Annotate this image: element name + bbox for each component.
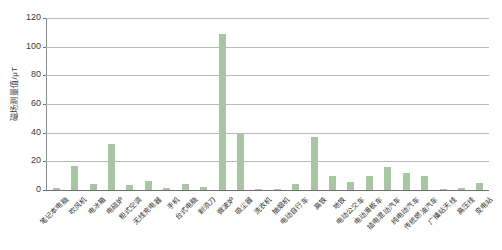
bar xyxy=(126,185,133,190)
bar xyxy=(274,189,281,190)
y-tick-label: 0 xyxy=(7,184,41,194)
bar xyxy=(458,188,465,190)
x-tick-label: 电冰箱 xyxy=(85,194,107,216)
y-tick-mark xyxy=(43,18,46,19)
y-tick-label: 20 xyxy=(7,155,41,165)
bar xyxy=(476,183,483,190)
y-tick-mark xyxy=(43,104,46,105)
y-tick-mark xyxy=(43,75,46,76)
x-tick-label: 笔记本电脑 xyxy=(38,194,71,227)
bar xyxy=(403,173,410,190)
y-tick-label: 80 xyxy=(7,69,41,79)
bar-slot xyxy=(342,18,360,190)
x-tick-label: 高铁 xyxy=(311,194,328,211)
bar xyxy=(163,188,170,190)
bar-slot xyxy=(176,18,194,190)
bar-slot xyxy=(231,18,249,190)
bar xyxy=(90,184,97,190)
bar-slot xyxy=(158,18,176,190)
bar-slot xyxy=(47,18,65,190)
bar-slot xyxy=(452,18,470,190)
bar xyxy=(440,189,447,190)
bar xyxy=(292,184,299,190)
bar xyxy=(145,181,152,190)
bar-slot xyxy=(305,18,323,190)
bar xyxy=(421,176,428,190)
bar-slot xyxy=(415,18,433,190)
bar xyxy=(219,34,226,190)
x-tick-label: 吹风机 xyxy=(66,194,88,216)
x-tick-label: 剃须刀 xyxy=(196,194,218,216)
bar xyxy=(347,182,354,190)
gridline xyxy=(46,190,489,191)
bar-slot xyxy=(139,18,157,190)
bar-slot xyxy=(434,18,452,190)
bar xyxy=(237,133,244,190)
bar-slot xyxy=(268,18,286,190)
x-tick-label: 吸尘器 xyxy=(233,194,255,216)
bar xyxy=(311,137,318,190)
y-tick-label: 100 xyxy=(7,41,41,51)
x-axis-tick-labels: 笔记本电脑吹风机电冰箱电磁炉柜式空调无线充电器手机台式电脑剃须刀微波炉吸尘器洗衣… xyxy=(46,192,489,250)
bar xyxy=(108,144,115,190)
bar xyxy=(255,189,262,190)
bar-slot xyxy=(397,18,415,190)
x-tick-label: 高压线 xyxy=(454,194,476,216)
magnetic-field-bar-chart: 磁场测量值/μT 020406080100120 笔记本电脑吹风机电冰箱电磁炉柜… xyxy=(0,0,502,250)
y-axis-title: 磁场测量值/μT xyxy=(0,0,10,62)
y-tick-mark xyxy=(43,190,46,191)
bar-slot xyxy=(102,18,120,190)
plot-area xyxy=(46,18,489,190)
bar xyxy=(329,176,336,190)
bar-slot xyxy=(360,18,378,190)
bar-slot xyxy=(84,18,102,190)
bar-slot xyxy=(323,18,341,190)
x-tick-label: 变电站 xyxy=(472,194,494,216)
bar-slot xyxy=(471,18,489,190)
y-tick-mark xyxy=(43,47,46,48)
bar-slot xyxy=(65,18,83,190)
bar-slot xyxy=(286,18,304,190)
bar xyxy=(366,176,373,190)
bar xyxy=(53,188,60,190)
y-tick-label: 60 xyxy=(7,98,41,108)
bar-slot xyxy=(379,18,397,190)
bar xyxy=(384,167,391,190)
y-tick-mark xyxy=(43,133,46,134)
y-tick-label: 40 xyxy=(7,127,41,137)
y-tick-mark xyxy=(43,161,46,162)
bar-slot xyxy=(194,18,212,190)
bar xyxy=(71,166,78,190)
y-tick-label: 120 xyxy=(7,12,41,22)
bar-slot xyxy=(213,18,231,190)
bar xyxy=(182,184,189,190)
x-tick-label: 微波炉 xyxy=(214,194,236,216)
bars-group xyxy=(47,18,489,190)
bar-slot xyxy=(121,18,139,190)
bar-slot xyxy=(250,18,268,190)
bar xyxy=(200,187,207,190)
x-tick-label: 洗衣机 xyxy=(251,194,273,216)
